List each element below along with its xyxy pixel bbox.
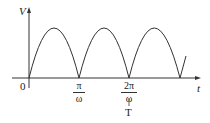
rectified-sine-plot xyxy=(0,0,210,123)
y-axis-arrow-icon xyxy=(27,7,31,13)
tick1-numerator: π xyxy=(73,81,85,91)
tick-pi-over-omega: π ω xyxy=(73,81,85,104)
x-axis-label: t xyxy=(197,83,200,94)
origin-label: 0 xyxy=(20,81,26,92)
tick2-numerator: 2π xyxy=(121,81,137,91)
x-axis-arrow-icon xyxy=(195,76,201,80)
tick2-denominator: ω xyxy=(121,94,137,104)
period-label: T xyxy=(125,107,132,118)
tick1-denominator: ω xyxy=(73,94,85,104)
tick-2pi-over-omega: 2π ω xyxy=(121,81,137,104)
rectified-sine-curve xyxy=(29,28,186,78)
y-axis-label: V xyxy=(19,6,26,17)
